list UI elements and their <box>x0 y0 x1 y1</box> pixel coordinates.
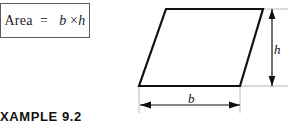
height-arrowhead-down-icon <box>269 76 276 86</box>
parallelogram-diagram <box>0 0 299 123</box>
height-arrowhead-up-icon <box>269 9 276 19</box>
base-arrowhead-right-icon <box>229 102 240 109</box>
base-dimension-label: b <box>188 92 195 105</box>
base-arrowhead-left-icon <box>140 102 151 109</box>
height-dimension-label: h <box>274 43 281 56</box>
figure-caption: XAMPLE 9.2 <box>0 109 82 123</box>
figure-page: Area = b ×h h b XAMPLE 9.2 <box>0 0 299 123</box>
parallelogram-outline <box>139 9 263 86</box>
